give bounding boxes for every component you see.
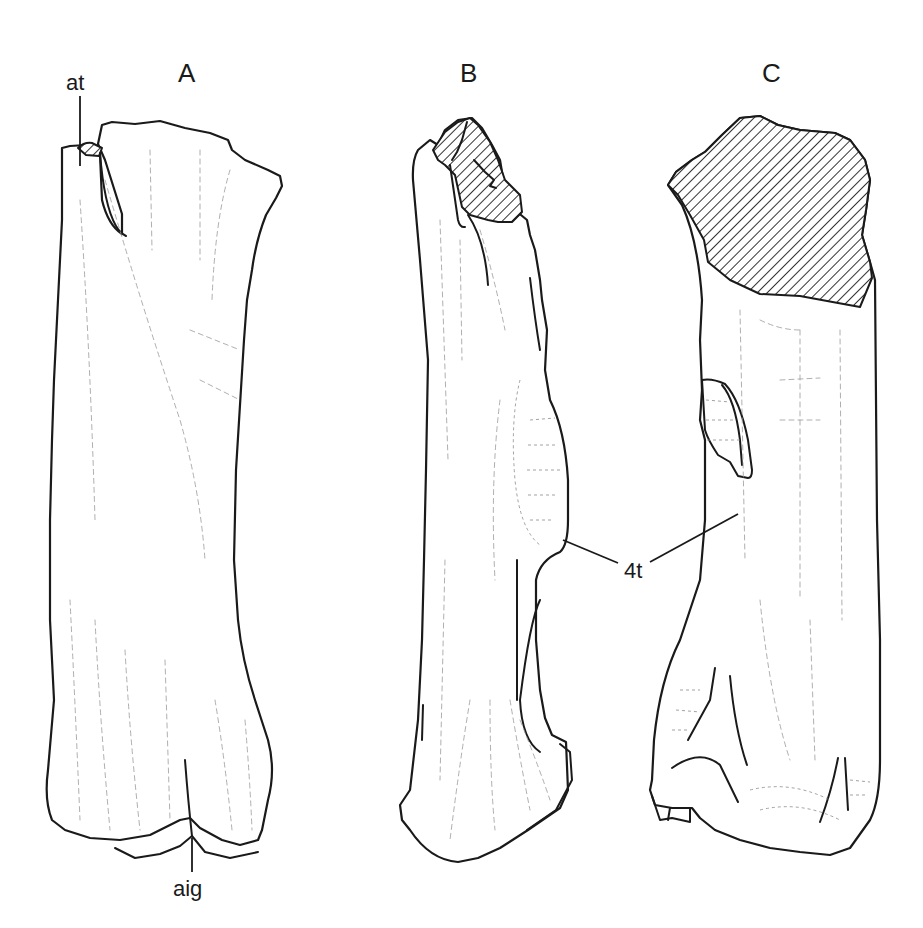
panel-a: A at aig	[47, 58, 282, 901]
panel-c: C	[650, 58, 880, 855]
panel-label-b: B	[460, 58, 477, 88]
panel-b: B	[400, 58, 572, 862]
bone-illustration-figure: A at aig B	[0, 0, 923, 928]
leader-4t-b	[563, 540, 618, 563]
panel-label-a: A	[178, 58, 196, 88]
bone-outline-b	[400, 118, 568, 862]
panel-label-c: C	[762, 58, 781, 88]
annotation-4t: 4t	[624, 558, 642, 583]
annotation-at: at	[66, 70, 84, 95]
annotation-aig: aig	[173, 876, 202, 901]
broken-surface-c	[668, 116, 872, 307]
